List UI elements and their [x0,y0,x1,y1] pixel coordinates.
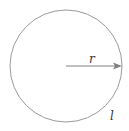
radius-label: r [89,52,96,66]
circle-diagram: r l [0,0,129,131]
circumference-label: l [110,109,114,123]
